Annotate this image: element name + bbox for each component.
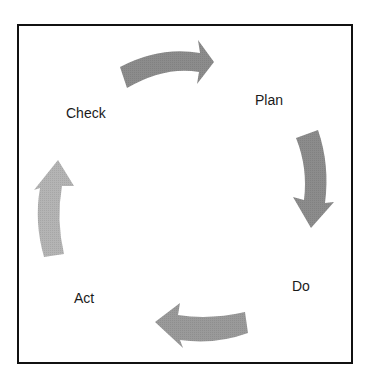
curved-arrow-left-icon	[155, 303, 248, 348]
curved-arrow-right-icon	[120, 40, 214, 88]
cycle-diagram	[0, 0, 370, 385]
stage-label-plan: Plan	[255, 92, 283, 108]
curved-arrow-down-icon	[293, 130, 334, 228]
stage-label-check: Check	[66, 105, 106, 121]
stage-label-act: Act	[74, 290, 94, 306]
stage-label-do: Do	[292, 278, 310, 294]
curved-arrow-up-icon	[34, 160, 74, 257]
